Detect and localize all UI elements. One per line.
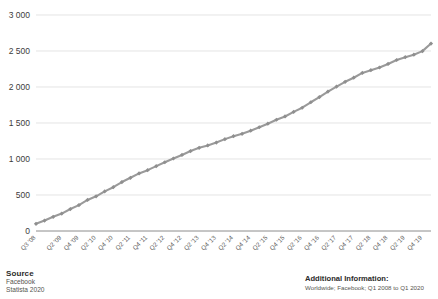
x-axis-tick-label: Q4 '11 — [131, 233, 149, 251]
x-axis-tick-label: Q4 '17 — [337, 233, 355, 251]
source-block: Source Facebook Statista 2020 — [6, 269, 45, 294]
line-chart-svg: 05001 0001 5002 0002 5003 000 Q3 '08Q2 '… — [0, 0, 438, 268]
x-axis-tick-label: Q4 '15 — [268, 233, 286, 251]
y-axis-tick-label: 1 000 — [9, 154, 31, 164]
y-axis-tick-label: 1 500 — [9, 118, 31, 128]
x-axis-tick-label: Q2 '13 — [182, 233, 200, 251]
x-axis-tick-label: Q2 '18 — [354, 233, 372, 251]
x-axis-tick-label: Q2 '11 — [114, 233, 132, 251]
source-title: Source — [6, 269, 45, 278]
x-axis-tick-label: Q4 '16 — [302, 233, 320, 251]
x-axis-tick-label: Q4 '14 — [234, 233, 252, 251]
source-line-2: Statista 2020 — [6, 286, 45, 294]
y-axis-tick-label: 2 000 — [9, 82, 31, 92]
x-axis-tick-label: Q4 '18 — [371, 233, 389, 251]
additional-information-block: Additional Information: Worldwide; Faceb… — [305, 275, 424, 291]
source-line-1: Facebook — [6, 278, 45, 286]
x-axis-tick-label: Q4 '10 — [96, 233, 114, 251]
x-axis-labels-group: Q3 '08Q2 '09Q4 '09Q2 '10Q4 '10Q2 '11Q4 '… — [19, 233, 424, 251]
chart-container: 05001 0001 5002 0002 5003 000 Q3 '08Q2 '… — [0, 0, 438, 299]
x-axis-tick-label: Q2 '10 — [79, 233, 97, 251]
x-axis-tick-label: Q2 '14 — [216, 233, 234, 251]
x-axis-tick-label: Q4 '13 — [199, 233, 217, 251]
x-axis-tick-label: Q4 '19 — [405, 233, 423, 251]
y-axis-tick-label: 0 — [25, 226, 30, 236]
x-axis-tick-label: Q2 '19 — [388, 233, 406, 251]
x-axis-tick-label: Q4 '12 — [165, 233, 183, 251]
x-axis-tick-label: Q2 '09 — [45, 233, 63, 251]
x-axis-tick-label: Q2 '16 — [285, 233, 303, 251]
additional-information-line-1: Worldwide; Facebook; Q1 2008 to Q1 2020 — [305, 284, 424, 291]
plot-area: 05001 0001 5002 0002 5003 000 Q3 '08Q2 '… — [0, 0, 438, 268]
x-axis-tick-label: Q4 '09 — [62, 233, 80, 251]
y-axis-tick-label: 2 500 — [9, 46, 31, 56]
gridlines-group — [36, 15, 431, 231]
y-axis-tick-label: 3 000 — [9, 10, 31, 20]
data-series-group — [34, 41, 433, 225]
x-axis-tick-label: Q2 '15 — [251, 233, 269, 251]
y-axis-labels-group: 05001 0001 5002 0002 5003 000 — [9, 10, 31, 236]
y-axis-tick-label: 500 — [16, 190, 30, 200]
chart-footer: Source Facebook Statista 2020 Additional… — [0, 266, 438, 299]
additional-information-title: Additional Information: — [305, 275, 424, 284]
x-axis-tick-label: Q3 '08 — [19, 233, 37, 251]
x-axis-tick-label: Q2 '17 — [320, 233, 338, 251]
x-axis-tick-label: Q2 '12 — [148, 233, 166, 251]
